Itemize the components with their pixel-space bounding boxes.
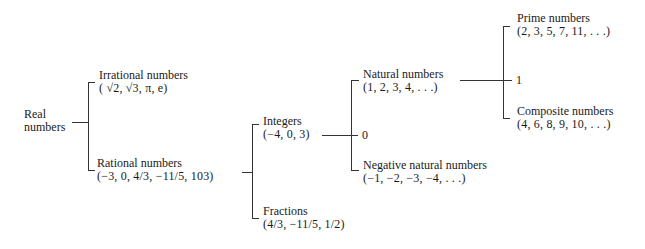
natural-examples: (1, 2, 3, 4, . . .) (363, 81, 443, 94)
fractions-examples: (4/3, −11/5, 1/2) (263, 218, 345, 231)
integers-examples: (−4, 0, 3) (263, 128, 310, 141)
bracket-integers-vertical (351, 80, 352, 170)
number-classification-diagram: Real numbers Irrational numbers ( √2, √3… (0, 0, 645, 249)
bracket-real-top-tick (88, 82, 95, 83)
bracket-natural-vertical (503, 26, 504, 119)
bracket-rational-vertical (252, 124, 253, 218)
irrational-examples: ( √2, √3, π, e) (99, 82, 188, 95)
bracket-real-vertical (88, 82, 89, 170)
bracket-rational-bottom-tick (252, 218, 259, 219)
bracket-rational-top-tick (252, 124, 259, 125)
bracket-integers-top-tick (351, 80, 359, 81)
bracket-natural-bottom-tick (503, 118, 510, 119)
prime-examples: (2, 3, 5, 7, 11, . . .) (517, 25, 610, 38)
real-numbers-line2: numbers (24, 121, 65, 134)
bracket-real-bottom-tick (88, 170, 95, 171)
node-zero: 0 (362, 129, 368, 142)
node-integers: Integers (−4, 0, 3) (263, 115, 310, 141)
bracket-integers-bottom-tick (351, 170, 359, 171)
connector-rational-stub (242, 172, 252, 173)
node-real-numbers: Real numbers (24, 108, 65, 134)
rational-examples: (−3, 0, 4/3, −11/5, 103) (97, 170, 214, 183)
connector-integers-to-zero (322, 135, 358, 136)
node-fractions: Fractions (4/3, −11/5, 1/2) (263, 205, 345, 231)
node-irrational-numbers: Irrational numbers ( √2, √3, π, e) (99, 69, 188, 95)
node-composite-numbers: Composite numbers (4, 6, 8, 9, 10, . . .… (517, 105, 613, 131)
node-one: 1 (516, 74, 522, 87)
connector-real-stub (72, 122, 88, 123)
composite-examples: (4, 6, 8, 9, 10, . . .) (517, 118, 613, 131)
node-prime-numbers: Prime numbers (2, 3, 5, 7, 11, . . .) (517, 12, 610, 38)
node-natural-numbers: Natural numbers (1, 2, 3, 4, . . .) (363, 68, 443, 94)
node-negative-natural-numbers: Negative natural numbers (−1, −2, −3, −4… (363, 159, 487, 185)
connector-natural-to-one (460, 80, 512, 81)
node-rational-numbers: Rational numbers (−3, 0, 4/3, −11/5, 103… (97, 157, 214, 183)
bracket-natural-top-tick (503, 26, 510, 27)
negative-natural-examples: (−1, −2, −3, −4, . . .) (363, 172, 487, 185)
